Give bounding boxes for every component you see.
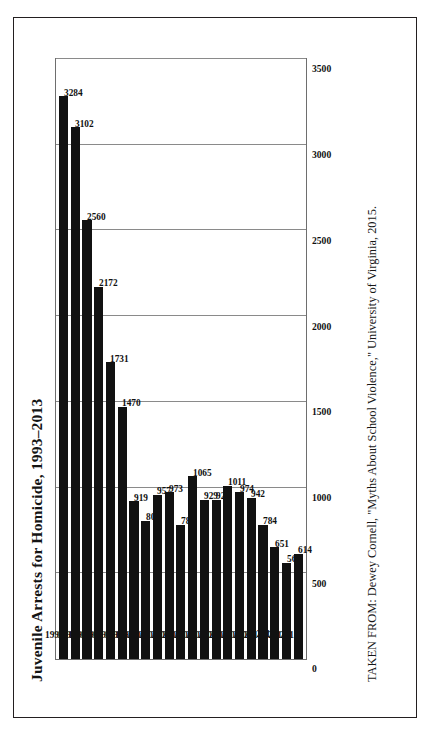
bar-row: 929 xyxy=(212,59,221,659)
value-tick-label: 1500 xyxy=(312,407,331,417)
figure: Juvenile Arrests for Homicide, 1993–2013… xyxy=(24,32,406,704)
value-tick-label: 0 xyxy=(312,664,317,674)
bar-row: 560 xyxy=(282,59,291,659)
bar-row: 1731 xyxy=(106,59,115,659)
value-tick-label: 3500 xyxy=(312,64,331,74)
bar-row: 784 xyxy=(258,59,267,659)
plot-area: 3284310225602172173114709198069579737831… xyxy=(55,58,307,660)
bar-row: 3284 xyxy=(59,59,68,659)
bar-series: 3284310225602172173114709198069579737831… xyxy=(56,59,306,659)
bar-row: 614 xyxy=(294,59,303,659)
bar: 3284 xyxy=(59,96,68,659)
chart-title: Juvenile Arrests for Homicide, 1993–2013 xyxy=(24,32,55,704)
value-axis: 3500300025002000150010005000 xyxy=(307,58,353,660)
bar: 2560 xyxy=(82,220,91,659)
rotated-figure-stage: Juvenile Arrests for Homicide, 1993–2013… xyxy=(24,32,406,704)
bar-row: 929 xyxy=(200,59,209,659)
bar: 1731 xyxy=(106,362,115,659)
bar-row: 783 xyxy=(176,59,185,659)
category-axis: 1993199419951996199719981999200020012002… xyxy=(56,633,306,659)
bar-row: 806 xyxy=(141,59,150,659)
value-tick-label: 2500 xyxy=(312,235,331,245)
value-tick-label: 2000 xyxy=(312,321,331,331)
source-caption: TAKEN FROM: Dewey Cornell, "Myths About … xyxy=(365,32,380,704)
bar-row: 1470 xyxy=(118,59,127,659)
bar-row: 973 xyxy=(165,59,174,659)
value-tick-label: 3000 xyxy=(312,150,331,160)
bar-row: 1011 xyxy=(223,59,232,659)
bar-row: 942 xyxy=(247,59,256,659)
value-tick-label: 1000 xyxy=(312,493,331,503)
bar-row: 3102 xyxy=(71,59,80,659)
bar-row: 2560 xyxy=(82,59,91,659)
page-border: Juvenile Arrests for Homicide, 1993–2013… xyxy=(13,17,417,718)
bar-row: 651 xyxy=(270,59,279,659)
bar: 1470 xyxy=(118,407,127,659)
bar-row: 1065 xyxy=(188,59,197,659)
bar-row: 974 xyxy=(235,59,244,659)
bar: 3102 xyxy=(71,127,80,659)
bar-row: 919 xyxy=(129,59,138,659)
bar-row: 2172 xyxy=(94,59,103,659)
year-tick-label: 2013 xyxy=(280,630,299,639)
bar: 2172 xyxy=(94,286,103,658)
bar-row: 957 xyxy=(153,59,162,659)
value-tick-label: 500 xyxy=(312,578,326,588)
